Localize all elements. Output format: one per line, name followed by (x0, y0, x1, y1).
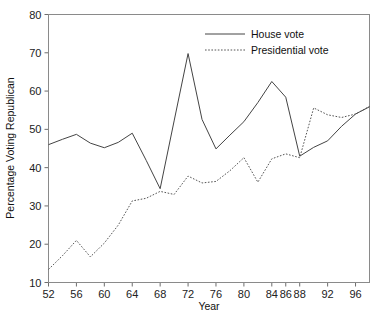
x-tick-label: 80 (238, 288, 250, 300)
y-tick-label: 40 (29, 162, 41, 174)
y-tick-label: 70 (29, 47, 41, 59)
x-tick-label: 56 (70, 288, 82, 300)
vote-percentage-line-chart: 1020304050607080 52566064687276808486889… (0, 0, 384, 317)
y-tick-label: 50 (29, 123, 41, 135)
x-tick-label: 88 (294, 288, 306, 300)
y-axis-title: Percentage Voting Republican (4, 77, 16, 218)
x-axis-title: Year (198, 300, 220, 312)
x-tick-label: 60 (98, 288, 110, 300)
chart-container: 1020304050607080 52566064687276808486889… (0, 0, 384, 317)
x-tick-label: 84 (266, 288, 278, 300)
x-tick-label: 64 (126, 288, 138, 300)
y-tick-label: 80 (29, 9, 41, 21)
x-tick-label: 52 (42, 288, 54, 300)
y-tick-label: 10 (29, 277, 41, 289)
legend-label: House vote (251, 28, 304, 40)
y-tick-label: 60 (29, 85, 41, 97)
x-tick-label: 76 (210, 288, 222, 300)
x-tick-label: 86 (280, 288, 292, 300)
y-tick-label: 20 (29, 238, 41, 250)
y-tick-label: 30 (29, 200, 41, 212)
x-tick-label: 92 (322, 288, 334, 300)
legend-label: Presidential vote (251, 44, 329, 56)
x-tick-label: 96 (349, 288, 361, 300)
x-tick-label: 68 (154, 288, 166, 300)
x-tick-label: 72 (182, 288, 194, 300)
